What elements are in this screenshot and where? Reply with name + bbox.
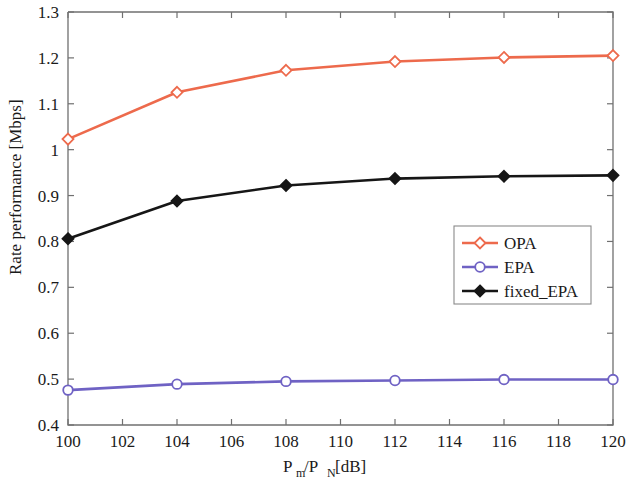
y-tick-label-1: 1	[51, 141, 60, 160]
marker-opa-104	[172, 87, 183, 98]
x-tick-label-100: 100	[55, 432, 81, 451]
x-axis-title: P m /P N [dB]	[283, 457, 366, 480]
marker-epa-108	[281, 377, 291, 387]
svg-text:[dB]: [dB]	[335, 457, 366, 476]
x-tick-label-112: 112	[383, 432, 408, 451]
marker-opa-108	[281, 65, 292, 76]
x-tick-label-110: 110	[328, 432, 353, 451]
series-line-epa	[68, 380, 613, 391]
marker-opa-116	[499, 52, 510, 63]
x-tick-label-116: 116	[492, 432, 517, 451]
x-tick-label-106: 106	[219, 432, 245, 451]
x-tick-labels: 100102104106108110112114116118120	[55, 432, 626, 451]
marker-fixed_epa-116	[499, 171, 510, 182]
marker-fixed_epa-112	[390, 173, 401, 184]
x-tick-label-108: 108	[273, 432, 299, 451]
y-tick-label-0.5: 0.5	[38, 370, 59, 389]
axes	[68, 12, 613, 425]
y-tick-label-0.6: 0.6	[38, 324, 59, 343]
svg-text:/P: /P	[304, 457, 318, 476]
y-tick-label-1.1: 1.1	[38, 95, 59, 114]
marker-epa-116	[499, 375, 509, 385]
y-tick-label-0.7: 0.7	[38, 278, 60, 297]
x-tick-label-104: 104	[164, 432, 190, 451]
x-tick-label-118: 118	[546, 432, 571, 451]
marker-epa-104	[172, 379, 182, 389]
series-opa	[63, 50, 619, 145]
y-tick-label-0.4: 0.4	[38, 416, 60, 435]
y-tick-labels: 0.40.50.60.70.80.911.11.21.3	[38, 3, 60, 435]
chart-figure: 100102104106108110112114116118120 0.40.5…	[0, 0, 627, 481]
legend-label-opa: OPA	[504, 234, 537, 253]
legend-marker-epa	[475, 262, 485, 272]
svg-text:P: P	[283, 457, 292, 476]
y-tick-label-1.2: 1.2	[38, 49, 59, 68]
marker-fixed_epa-100	[63, 233, 74, 244]
tick-marks	[68, 12, 613, 425]
marker-opa-100	[63, 134, 74, 145]
data-series	[63, 50, 619, 395]
y-tick-label-0.8: 0.8	[38, 232, 59, 251]
y-tick-label-0.9: 0.9	[38, 187, 59, 206]
legend-label-epa: EPA	[504, 258, 535, 277]
marker-opa-120	[608, 50, 619, 61]
marker-fixed_epa-104	[172, 196, 183, 207]
marker-epa-100	[63, 385, 73, 395]
axis-frame	[68, 12, 613, 425]
legend-label-fixed_epa: fixed_EPA	[504, 282, 579, 301]
y-axis-title: Rate performance [Mbps]	[6, 99, 25, 275]
marker-fixed_epa-120	[608, 170, 619, 181]
series-line-opa	[68, 56, 613, 140]
line-chart: 100102104106108110112114116118120 0.40.5…	[0, 0, 627, 481]
svg-text:Rate performance [Mbps]: Rate performance [Mbps]	[6, 99, 25, 275]
marker-epa-120	[608, 375, 618, 385]
series-epa	[63, 375, 618, 395]
marker-fixed_epa-108	[281, 180, 292, 191]
y-tick-label-1.3: 1.3	[38, 3, 59, 22]
x-tick-label-102: 102	[110, 432, 136, 451]
marker-opa-112	[390, 56, 401, 67]
x-tick-label-114: 114	[437, 432, 462, 451]
chart-legend: OPAEPAfixed_EPA	[454, 226, 591, 304]
marker-epa-112	[390, 376, 400, 386]
x-tick-label-120: 120	[600, 432, 626, 451]
